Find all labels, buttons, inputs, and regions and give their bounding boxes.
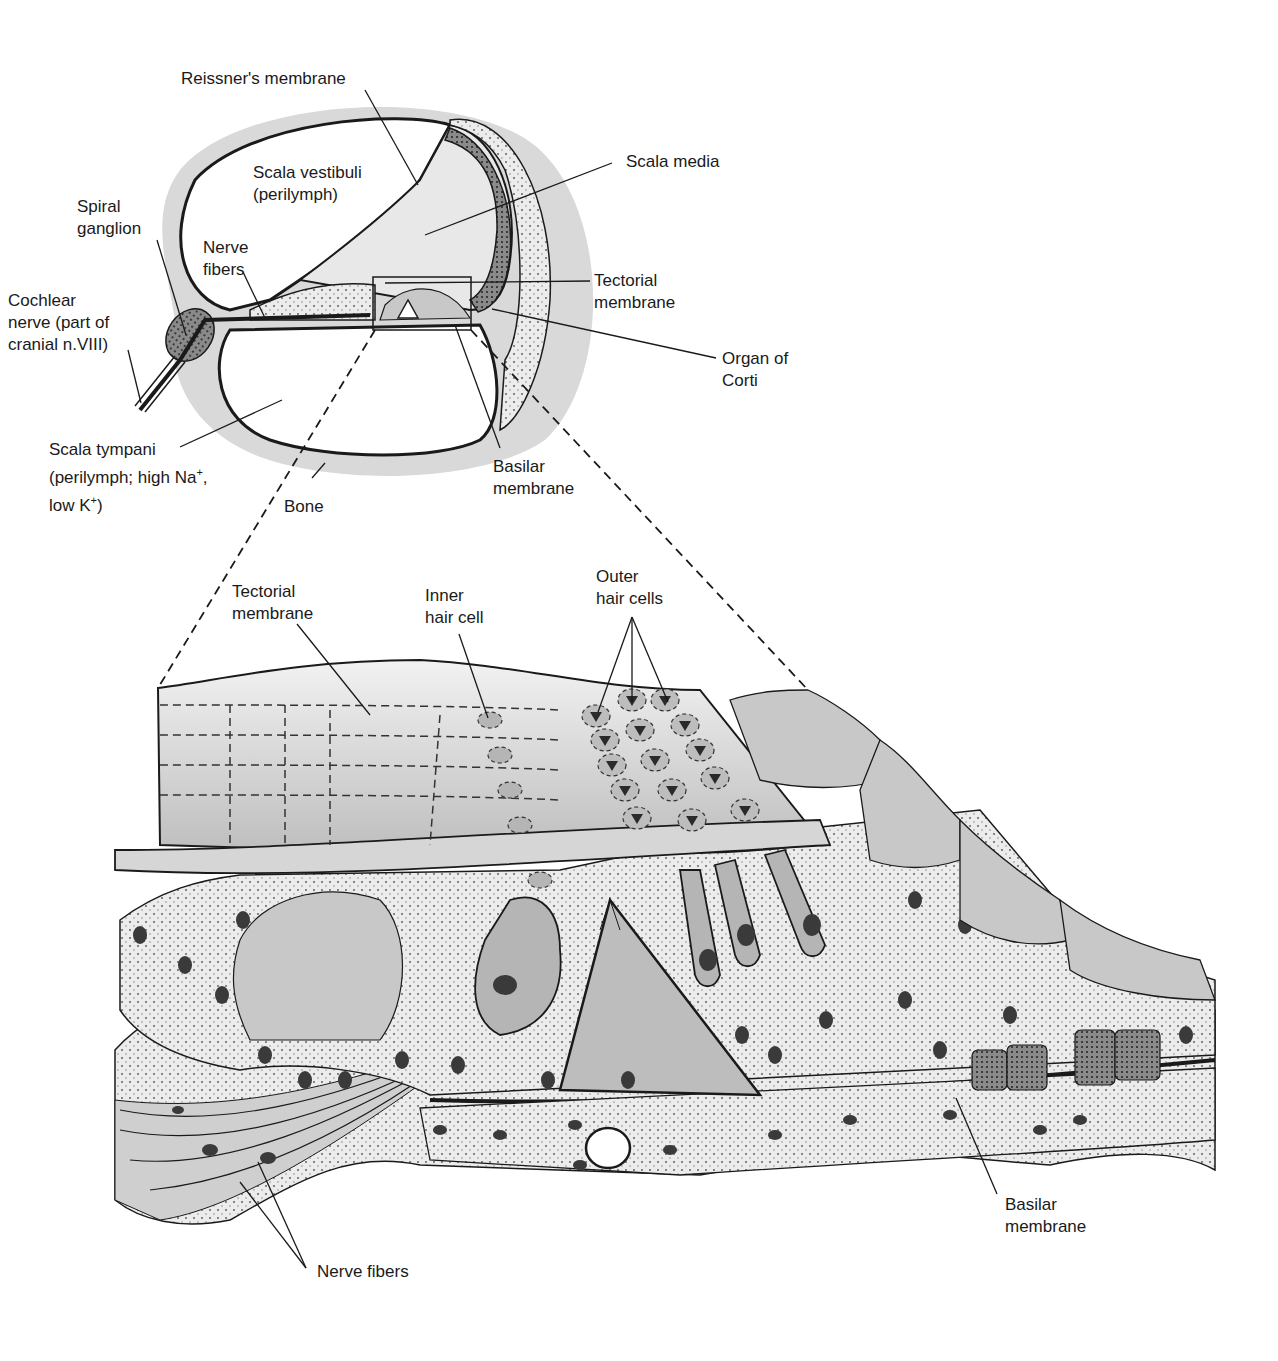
- label-tectorial-membrane-top-line2: membrane: [594, 292, 675, 314]
- label-nerve-fibers-detail: Nerve fibers: [317, 1261, 409, 1283]
- label-outer-hair-cells-line2: hair cells: [596, 588, 663, 610]
- label-tectorial-membrane-detail: Tectorial membrane: [232, 581, 313, 625]
- label-spiral-ganglion: Spiral ganglion: [77, 196, 141, 240]
- label-outer-hair-cells: Outer hair cells: [596, 566, 663, 610]
- label-scala-tympani-line1: Scala tympani: [49, 439, 208, 461]
- label-scala-vestibuli-line1: Scala vestibuli: [253, 162, 362, 184]
- label-bone: Bone: [284, 496, 324, 518]
- cochlea-cross-section: [135, 107, 593, 476]
- label-scala-media: Scala media: [626, 151, 720, 173]
- label-scala-tympani-line3: low K+): [49, 489, 208, 517]
- label-spiral-ganglion-line1: Spiral: [77, 196, 141, 218]
- label-basilar-membrane-top-line2: membrane: [493, 478, 574, 500]
- label-organ-of-corti: Organ of Corti: [722, 348, 788, 392]
- label-nerve-fibers-top-line2: fibers: [203, 259, 248, 281]
- label-tectorial-membrane-top: Tectorial membrane: [594, 270, 675, 314]
- label-basilar-membrane-top-line1: Basilar: [493, 456, 574, 478]
- label-tectorial-membrane-detail-line1: Tectorial: [232, 581, 313, 603]
- label-basilar-membrane-detail-line1: Basilar: [1005, 1194, 1086, 1216]
- label-cochlear-nerve: Cochlear nerve (part of cranial n.VIII): [8, 290, 109, 356]
- label-tectorial-membrane-top-line1: Tectorial: [594, 270, 675, 292]
- label-inner-hair-cell-line1: Inner: [425, 585, 484, 607]
- label-cochlear-nerve-line2: nerve (part of: [8, 312, 109, 334]
- scala-tympani: [219, 325, 497, 455]
- label-scala-vestibuli-line2: (perilymph): [253, 184, 362, 206]
- label-reissners-membrane: Reissner's membrane: [181, 68, 346, 90]
- label-nerve-fibers-top: Nerve fibers: [203, 237, 248, 281]
- label-tectorial-membrane-detail-line2: membrane: [232, 603, 313, 625]
- label-inner-hair-cell-line2: hair cell: [425, 607, 484, 629]
- label-organ-of-corti-line2: Corti: [722, 370, 788, 392]
- organ-of-corti-detail: [115, 660, 1215, 1224]
- label-basilar-membrane-detail: Basilar membrane: [1005, 1194, 1086, 1238]
- label-outer-hair-cells-line1: Outer: [596, 566, 663, 588]
- label-inner-hair-cell: Inner hair cell: [425, 585, 484, 629]
- label-cochlear-nerve-line3: cranial n.VIII): [8, 334, 109, 356]
- label-cochlear-nerve-line1: Cochlear: [8, 290, 109, 312]
- label-spiral-ganglion-line2: ganglion: [77, 218, 141, 240]
- label-scala-vestibuli: Scala vestibuli (perilymph): [253, 162, 362, 206]
- label-scala-tympani: Scala tympani (perilymph; high Na+, low …: [49, 439, 208, 516]
- label-organ-of-corti-line1: Organ of: [722, 348, 788, 370]
- label-basilar-membrane-top: Basilar membrane: [493, 456, 574, 500]
- label-scala-tympani-line2: (perilymph; high Na+,: [49, 461, 208, 489]
- cochlea-illustration: [0, 0, 1278, 1361]
- label-basilar-membrane-detail-line2: membrane: [1005, 1216, 1086, 1238]
- label-nerve-fibers-top-line1: Nerve: [203, 237, 248, 259]
